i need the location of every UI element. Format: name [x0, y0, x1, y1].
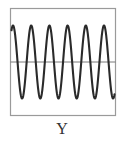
waveform-figure: Y — [0, 0, 124, 142]
panel-label: Y — [0, 120, 124, 138]
